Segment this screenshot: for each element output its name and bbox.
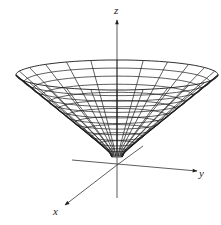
- y-axis: [72, 160, 197, 171]
- x-axis-label: x: [52, 205, 58, 217]
- cone-wireframe-mesh: [16, 60, 218, 158]
- x-axis: [65, 165, 117, 205]
- y-axis-label: y: [198, 167, 204, 179]
- cone-meridian: [122, 71, 215, 157]
- axes-front: [65, 157, 197, 205]
- cone-meridian: [19, 71, 112, 157]
- z-axis-label: z: [113, 4, 119, 16]
- cone-surface-figure: z y x: [0, 0, 221, 225]
